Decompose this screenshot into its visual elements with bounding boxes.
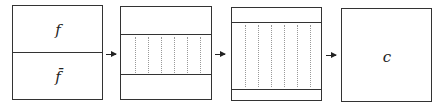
dotted-column <box>161 37 162 73</box>
label-f: f <box>55 21 61 39</box>
dotted-column <box>297 25 298 87</box>
arrow-3 <box>326 55 336 56</box>
box-f-fbar: f f̄ <box>12 5 103 100</box>
band-top-line <box>121 34 211 35</box>
dotted-column <box>245 25 246 87</box>
band-top-line <box>232 22 321 23</box>
dotted-column <box>148 37 149 73</box>
band-bottom-line <box>121 74 211 75</box>
box-expanded-band <box>231 7 322 101</box>
dotted-column <box>271 25 272 87</box>
label-f-bar: f̄ <box>55 68 61 86</box>
dotted-column <box>258 25 259 87</box>
dotted-column <box>200 37 201 73</box>
box-middle-band <box>120 6 212 100</box>
box-c: c <box>341 8 432 102</box>
band-bottom-line <box>232 89 321 90</box>
dotted-column <box>187 37 188 73</box>
dotted-column <box>174 37 175 73</box>
label-c: c <box>383 48 391 66</box>
divider <box>13 52 102 53</box>
arrow-2 <box>215 54 225 55</box>
dotted-column <box>284 25 285 87</box>
arrow-1 <box>106 54 116 55</box>
dotted-column <box>310 25 311 87</box>
dotted-column <box>135 37 136 73</box>
